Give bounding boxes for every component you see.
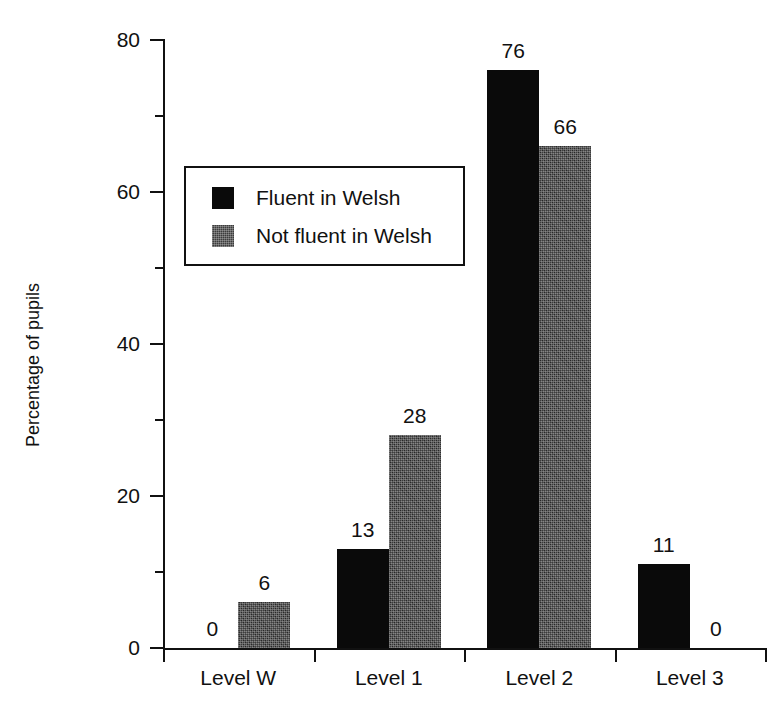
x-axis-group-tick [615, 648, 617, 662]
bar [539, 146, 591, 648]
x-axis-group-tick [163, 648, 165, 662]
bar [389, 435, 441, 648]
y-axis-major-tick [150, 39, 165, 41]
x-axis-group-tick [464, 648, 466, 662]
x-axis-group-label-level-w: Level W [163, 666, 314, 690]
y-axis-title: Percentage of pupils [23, 255, 43, 475]
legend-label-fluent: Fluent in Welsh [256, 187, 400, 209]
x-axis-group-tick [765, 648, 767, 662]
y-axis-tick-label: 20 [80, 485, 140, 506]
legend-swatch-black-square-icon [212, 187, 234, 209]
chart-legend: Fluent in Welsh Not fluent in Welsh [184, 166, 465, 266]
y-axis-tick-label: 60 [80, 181, 140, 202]
bar [487, 70, 539, 648]
legend-swatch-gray-square-icon [212, 225, 234, 247]
x-axis-group-label-level-1: Level 1 [314, 666, 465, 690]
x-axis-group-tick [314, 648, 316, 662]
y-axis-tick-label: 0 [80, 637, 140, 658]
bar [337, 549, 389, 648]
legend-entry-fluent: Fluent in Welsh [212, 185, 400, 211]
y-axis-minor-tick [155, 419, 165, 421]
bar-chart: Percentage of pupils 020406080 061328766… [0, 0, 771, 721]
legend-label-not-fluent: Not fluent in Welsh [256, 225, 432, 247]
y-axis-line [163, 40, 165, 650]
bar-value-label: 6 [228, 572, 300, 593]
y-axis-major-tick [150, 495, 165, 497]
bar-value-label: 76 [477, 40, 549, 61]
y-axis-minor-tick [155, 571, 165, 573]
bar-value-label: 28 [379, 405, 451, 426]
y-axis-major-tick [150, 343, 165, 345]
bar [238, 602, 290, 648]
y-axis-tick-label: 40 [80, 333, 140, 354]
y-axis-minor-tick [155, 267, 165, 269]
y-axis-tick-label: 80 [80, 29, 140, 50]
legend-entry-not-fluent: Not fluent in Welsh [212, 223, 432, 249]
bar-value-label: 66 [529, 116, 601, 137]
bar-value-label: 11 [628, 534, 700, 555]
x-axis-group-label-level-2: Level 2 [464, 666, 615, 690]
x-axis-group-label-level-3: Level 3 [615, 666, 766, 690]
y-axis-major-tick [150, 191, 165, 193]
bar-value-label: 0 [680, 618, 752, 639]
y-axis-minor-tick [155, 115, 165, 117]
